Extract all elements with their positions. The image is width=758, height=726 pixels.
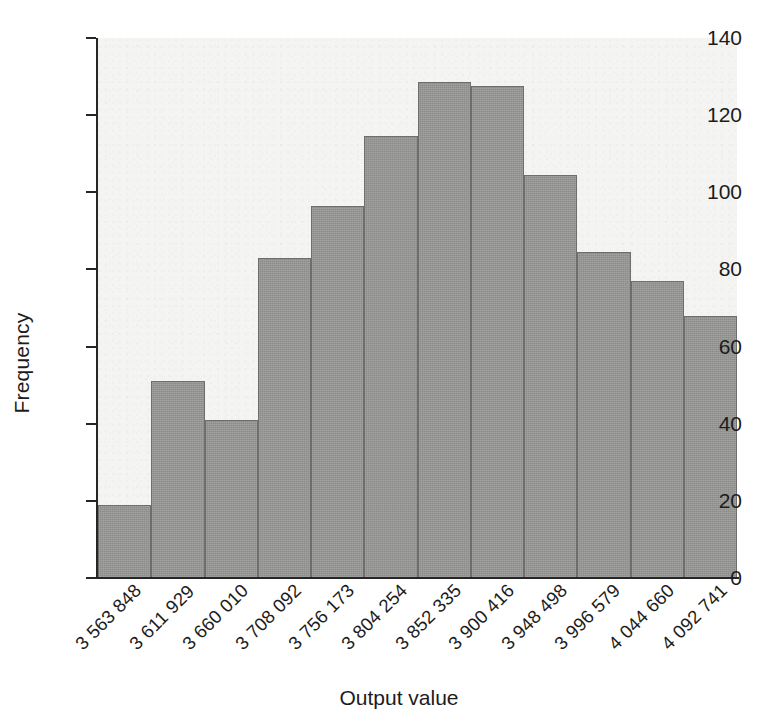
y-tick-mark [86,423,96,425]
x-axis-line [96,577,739,579]
y-tick-mark [86,577,96,579]
histogram-bar [151,381,204,578]
y-tick-mark [86,500,96,502]
y-tick-mark [86,268,96,270]
y-axis-line [96,38,98,579]
y-tick-label: 80 [680,257,758,281]
plot-panel [98,38,737,578]
x-axis-title: Output value [0,686,758,710]
y-tick-label: 60 [680,335,758,359]
y-tick-label: 140 [680,26,758,50]
y-tick-label: 40 [680,412,758,436]
y-tick-mark [86,37,96,39]
y-axis-title: Frequency [0,0,44,726]
y-tick-mark [86,114,96,116]
histogram-bar [631,281,684,578]
y-tick-label: 100 [680,180,758,204]
histogram-bar [471,86,524,578]
y-tick-label: 120 [680,103,758,127]
histogram-bar [524,175,577,578]
histogram-bar [311,206,364,578]
histogram-figure: Frequency 020406080100120140 3 563 8483 … [0,0,758,726]
y-tick-mark [86,346,96,348]
histogram-bar [205,420,258,578]
histogram-bar [577,252,630,578]
y-tick-label: 20 [680,489,758,513]
histogram-bar [364,136,417,578]
histogram-bar [418,82,471,578]
histogram-bar [98,505,151,578]
histogram-bar [258,258,311,578]
y-tick-mark [86,191,96,193]
